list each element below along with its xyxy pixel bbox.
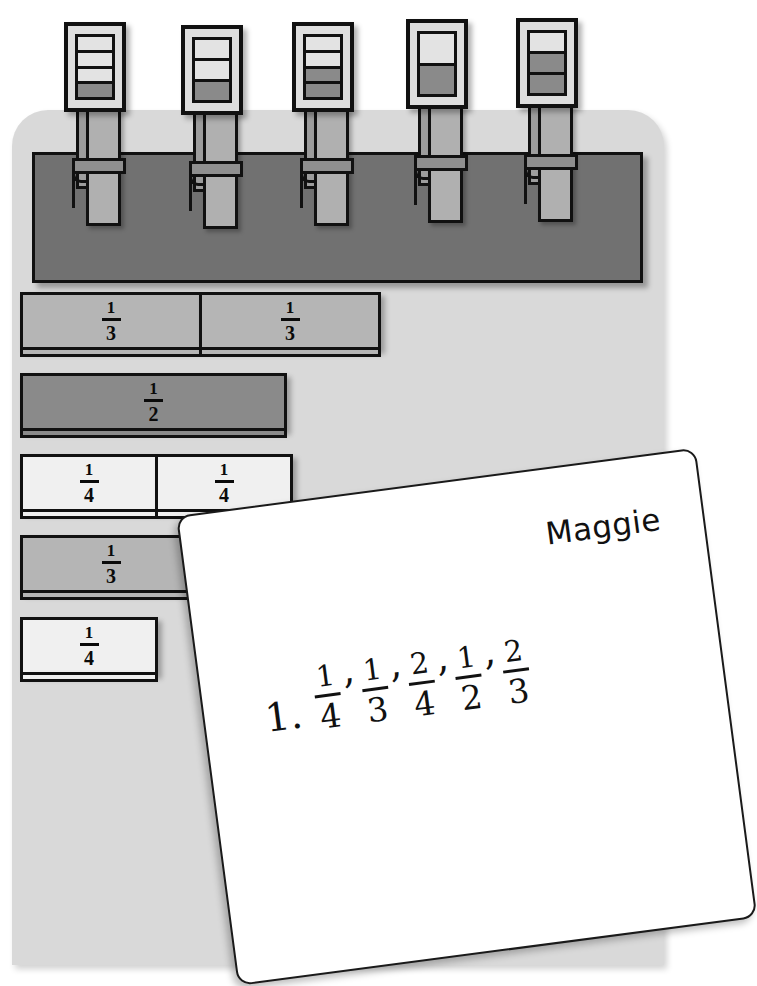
fraction-numerator: 1 <box>220 461 229 478</box>
fraction-numerator: 1 <box>85 624 94 641</box>
fraction-tile-1-over-4[interactable]: 14 <box>20 454 158 512</box>
card-segment-shaded <box>306 84 340 97</box>
tile-row-4: 13 <box>20 535 202 593</box>
fraction-denominator: 2 <box>149 404 159 424</box>
note-fraction-denominator: 3 <box>365 692 390 727</box>
tile-fraction-label: 13 <box>102 542 121 586</box>
tile-row-1: 1313 <box>20 292 381 350</box>
fraction-card-diagram <box>75 34 115 100</box>
fraction-denominator: 4 <box>84 648 94 668</box>
fraction-card-1-over-2[interactable] <box>406 19 468 109</box>
student-note-paper[interactable]: Maggie 1. 14,13,24,12,23 <box>176 448 757 986</box>
fraction-tile-1-over-3[interactable]: 13 <box>199 292 381 350</box>
clothespin-clamp <box>524 154 578 170</box>
card-segment-empty <box>306 37 340 53</box>
tile-fraction-label: 12 <box>144 380 163 424</box>
tile-bottom-edge <box>20 350 202 357</box>
card-segment-shaded <box>420 66 454 95</box>
tile-bottom-edge <box>20 675 158 682</box>
fraction-card-2-over-4[interactable] <box>292 22 354 112</box>
fraction-denominator: 3 <box>106 323 116 343</box>
card-segment-empty <box>78 53 112 69</box>
fraction-denominator: 3 <box>106 566 116 586</box>
note-item-number: 1. <box>262 691 305 740</box>
tile-bottom-edge <box>20 512 158 519</box>
fraction-bar-icon <box>102 561 121 564</box>
tile-row-5: 14 <box>20 617 158 675</box>
card-segment-shaded <box>78 84 112 97</box>
fraction-card-1-over-3[interactable] <box>181 25 243 115</box>
fraction-tile-1-over-4[interactable]: 14 <box>20 617 158 675</box>
student-name: Maggie <box>543 501 663 552</box>
clothespin-clamp <box>300 158 354 174</box>
note-fraction-1-over-3: 13 <box>358 654 393 728</box>
fraction-card-2-over-3[interactable] <box>516 18 578 108</box>
note-fraction-2-over-4: 24 <box>405 648 440 722</box>
fraction-numerator: 1 <box>85 461 94 478</box>
note-separator: , <box>339 646 357 692</box>
fraction-numerator: 1 <box>149 380 158 397</box>
card-segment-shaded <box>530 54 564 75</box>
fraction-tile-1-over-3[interactable]: 13 <box>20 292 202 350</box>
note-separator: , <box>386 640 404 686</box>
fraction-denominator: 4 <box>84 485 94 505</box>
card-segment-shaded <box>306 69 340 85</box>
fraction-tile-1-over-3[interactable]: 13 <box>20 535 202 593</box>
note-fraction-numerator: 1 <box>361 655 383 686</box>
note-fraction-1-over-2: 12 <box>452 642 487 716</box>
note-separator: , <box>433 634 451 680</box>
note-fraction-numerator: 2 <box>502 636 524 667</box>
tile-row-2: 12 <box>20 373 287 431</box>
card-segment-shaded <box>530 75 564 93</box>
fraction-numerator: 1 <box>286 299 295 316</box>
fraction-bar-icon <box>80 643 99 646</box>
note-fraction-denominator: 4 <box>318 698 343 733</box>
card-segment-shaded <box>195 82 229 100</box>
tile-bottom-edge <box>20 593 202 600</box>
fraction-numerator: 1 <box>107 542 116 559</box>
note-fraction-numerator: 2 <box>408 648 430 679</box>
tile-fraction-label: 14 <box>80 624 99 668</box>
tile-fraction-label: 13 <box>281 299 300 343</box>
note-fraction-2-over-3: 23 <box>499 636 534 710</box>
note-fraction-numerator: 1 <box>314 661 336 692</box>
card-segment-empty <box>530 33 564 54</box>
fraction-card-1-over-4[interactable] <box>64 22 126 112</box>
tile-bottom-edge <box>20 431 287 438</box>
fraction-denominator: 4 <box>219 485 229 505</box>
fraction-card-diagram <box>303 34 343 100</box>
note-answer-line: 1. 14,13,24,12,23 <box>257 623 535 741</box>
tile-fraction-label: 14 <box>80 461 99 505</box>
tile-fraction-label: 14 <box>215 461 234 505</box>
card-segment-empty <box>195 61 229 82</box>
note-fraction-denominator: 4 <box>412 686 437 721</box>
fraction-bar-icon <box>80 480 99 483</box>
fraction-card-diagram <box>192 37 232 103</box>
tile-bottom-edge <box>199 350 381 357</box>
card-segment-empty <box>420 34 454 66</box>
fraction-denominator: 3 <box>285 323 295 343</box>
tile-fraction-label: 13 <box>102 299 121 343</box>
clothespin-clamp <box>189 161 243 177</box>
fraction-bar-icon <box>102 318 121 321</box>
fraction-bar-icon <box>144 399 163 402</box>
fraction-card-diagram <box>417 31 457 97</box>
clothespin-clamp <box>414 155 468 171</box>
card-segment-empty <box>195 40 229 61</box>
card-segment-empty <box>306 53 340 69</box>
card-segment-empty <box>78 37 112 53</box>
card-segment-empty <box>78 69 112 85</box>
note-separator: , <box>480 628 498 674</box>
note-fraction-sequence: 14,13,24,12,23 <box>307 623 536 734</box>
fraction-bar-icon <box>215 480 234 483</box>
fraction-card-diagram <box>527 30 567 96</box>
note-fraction-denominator: 3 <box>506 674 531 709</box>
note-fraction-numerator: 1 <box>455 642 477 673</box>
tile-row-3: 1414 <box>20 454 293 512</box>
clothespin-clamp <box>72 158 126 174</box>
note-fraction-denominator: 2 <box>459 680 484 715</box>
fraction-bar-icon <box>281 318 300 321</box>
fraction-tile-1-over-2[interactable]: 12 <box>20 373 287 431</box>
note-fraction-1-over-4: 14 <box>311 660 346 734</box>
fraction-numerator: 1 <box>107 299 116 316</box>
